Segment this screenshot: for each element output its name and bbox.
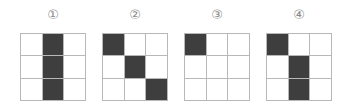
- filled-cell: [289, 56, 311, 78]
- empty-cell: [146, 34, 168, 56]
- empty-cell: [64, 56, 86, 78]
- figure-1: ①: [20, 0, 86, 107]
- empty-cell: [267, 79, 289, 101]
- filled-cell: [103, 34, 125, 56]
- empty-cell: [228, 79, 250, 101]
- filled-cell: [146, 79, 168, 101]
- filled-cell: [43, 79, 65, 101]
- filled-cell: [43, 34, 65, 56]
- empty-cell: [21, 34, 43, 56]
- filled-cell: [125, 56, 147, 78]
- empty-cell: [64, 79, 86, 101]
- filled-cell: [185, 34, 207, 56]
- empty-cell: [146, 56, 168, 78]
- empty-cell: [228, 56, 250, 78]
- empty-cell: [207, 56, 229, 78]
- empty-cell: [21, 56, 43, 78]
- empty-cell: [103, 79, 125, 101]
- empty-cell: [228, 34, 250, 56]
- figure-grid: [266, 33, 332, 101]
- empty-cell: [125, 79, 147, 101]
- empty-cell: [310, 56, 332, 78]
- figure-grid: [184, 33, 250, 101]
- empty-cell: [310, 79, 332, 101]
- empty-cell: [125, 34, 147, 56]
- figure-3: ③: [184, 0, 250, 107]
- empty-cell: [64, 34, 86, 56]
- figure-label: ④: [266, 7, 332, 23]
- empty-cell: [21, 79, 43, 101]
- empty-cell: [310, 34, 332, 56]
- figure-label: ②: [102, 7, 168, 23]
- filled-cell: [267, 34, 289, 56]
- filled-cell: [43, 56, 65, 78]
- figure-4: ④: [266, 0, 332, 107]
- filled-cell: [289, 79, 311, 101]
- empty-cell: [185, 56, 207, 78]
- empty-cell: [207, 34, 229, 56]
- figure-grid: [102, 33, 168, 101]
- empty-cell: [289, 34, 311, 56]
- figure-label: ③: [184, 7, 250, 23]
- empty-cell: [185, 79, 207, 101]
- figure-grid: [20, 33, 86, 101]
- empty-cell: [103, 56, 125, 78]
- empty-cell: [207, 79, 229, 101]
- figure-2: ②: [102, 0, 168, 107]
- empty-cell: [267, 56, 289, 78]
- figure-label: ①: [20, 7, 86, 23]
